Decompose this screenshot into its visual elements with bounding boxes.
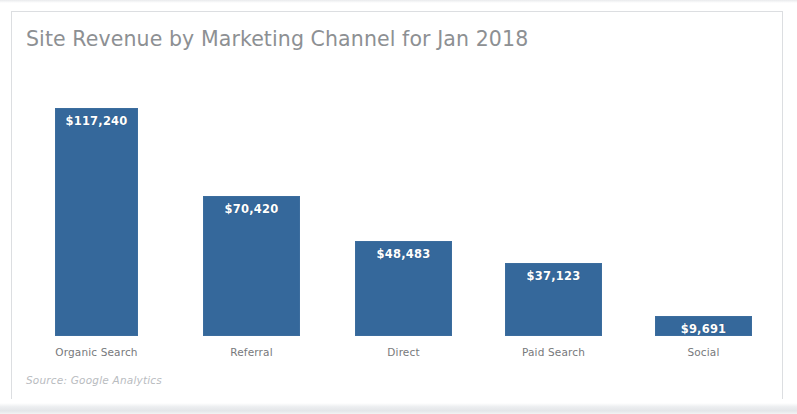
bar-value-label: $117,240 [55,114,138,128]
bar-value-label: $37,123 [505,269,602,283]
category-label: Direct [330,346,477,358]
bar-value-label: $9,691 [655,322,752,336]
bar-value-label: $70,420 [203,202,300,216]
bar[interactable]: $48,483 [355,241,452,336]
category-label: Paid Search [480,346,627,358]
source-note: Source: Google Analytics [26,374,162,386]
bar[interactable]: $117,240 [55,108,138,336]
scan-edge-bottom [0,403,797,414]
bar-value-label: $48,483 [355,247,452,261]
plot-area: $117,240Organic Search$70,420Referral$48… [0,0,797,414]
bar[interactable]: $70,420 [203,196,300,336]
category-label: Social [630,346,777,358]
category-label: Referral [178,346,325,358]
category-label: Organic Search [23,346,170,358]
chart-figure: Site Revenue by Marketing Channel for Ja… [0,0,797,414]
bar[interactable]: $9,691 [655,316,752,336]
bar[interactable]: $37,123 [505,263,602,336]
